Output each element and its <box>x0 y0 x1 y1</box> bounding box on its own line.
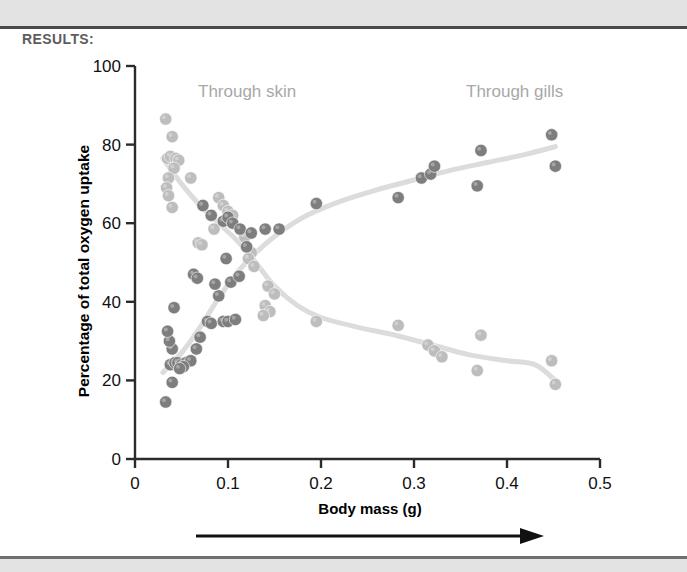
data-point <box>310 315 322 327</box>
data-point <box>191 272 203 284</box>
data-point-highlight <box>170 304 174 308</box>
data-point <box>259 223 271 235</box>
stage-arrow-icon <box>0 522 687 552</box>
x-axis-title: Body mass (g) <box>135 500 605 517</box>
data-point-highlight <box>211 280 215 284</box>
data-point-highlight <box>261 302 265 306</box>
x-tick-label: 0.2 <box>309 474 333 493</box>
data-point <box>471 364 483 376</box>
data-point-highlight <box>418 174 422 178</box>
data-point-highlight <box>245 255 249 259</box>
data-point <box>166 131 178 143</box>
data-point-highlight <box>224 214 228 218</box>
data-point <box>245 227 257 239</box>
data-point-highlight <box>196 333 200 337</box>
data-point <box>166 201 178 213</box>
chart-plot-area: 02040608010000.10.20.30.40.5 <box>0 0 687 572</box>
x-tick-label: 0.1 <box>216 474 240 493</box>
y-tick-label: 0 <box>112 450 121 469</box>
data-point <box>428 160 440 172</box>
data-point <box>194 331 206 343</box>
data-point-highlight <box>431 162 435 166</box>
data-point <box>471 180 483 192</box>
y-tick-label: 80 <box>102 136 121 155</box>
data-point <box>196 239 208 251</box>
data-point <box>475 329 487 341</box>
data-point-highlight <box>207 320 211 324</box>
data-point <box>545 355 557 367</box>
data-point-highlight <box>275 225 279 229</box>
data-point-highlight <box>548 131 552 135</box>
series-points-0 <box>159 113 561 391</box>
data-point-highlight <box>162 115 166 119</box>
data-point-highlight <box>313 318 317 322</box>
data-point-highlight <box>261 225 265 229</box>
data-point <box>159 113 171 125</box>
data-point-highlight <box>229 219 233 223</box>
y-tick-label: 40 <box>102 293 121 312</box>
data-point <box>205 317 217 329</box>
data-point-highlight <box>473 182 477 186</box>
data-point <box>549 160 561 172</box>
data-point <box>173 362 185 374</box>
data-point-highlight <box>215 292 219 296</box>
data-point <box>436 351 448 363</box>
data-point <box>234 223 246 235</box>
data-point-highlight <box>260 312 264 316</box>
data-point-highlight <box>176 365 180 369</box>
data-point-highlight <box>220 202 224 206</box>
data-point <box>161 325 173 337</box>
data-point <box>168 301 180 313</box>
data-point-highlight <box>162 398 166 402</box>
data-point <box>185 172 197 184</box>
data-point <box>213 290 225 302</box>
data-point-highlight <box>264 282 268 286</box>
data-point-highlight <box>210 225 214 229</box>
data-point-highlight <box>187 174 191 178</box>
data-point-highlight <box>168 379 172 383</box>
data-point-highlight <box>236 225 240 229</box>
x-tick-label: 0.4 <box>495 474 519 493</box>
data-point <box>549 378 561 390</box>
data-point-highlight <box>424 341 428 345</box>
data-point-highlight <box>168 204 172 208</box>
x-tick-label: 0 <box>130 474 139 493</box>
data-point <box>205 209 217 221</box>
data-point-highlight <box>552 381 556 385</box>
data-point-highlight <box>227 278 231 282</box>
panel-bottom-band <box>0 559 687 572</box>
data-point <box>233 270 245 282</box>
data-point <box>475 144 487 156</box>
data-point <box>159 396 171 408</box>
data-point-highlight <box>271 290 275 294</box>
data-point <box>392 191 404 203</box>
data-point <box>273 223 285 235</box>
data-point-highlight <box>194 274 198 278</box>
series-label-through-skin: Through skin <box>198 82 296 102</box>
data-point-highlight <box>168 133 172 137</box>
data-point-highlight <box>187 357 191 361</box>
data-point <box>229 313 241 325</box>
data-point-highlight <box>548 357 552 361</box>
data-point <box>190 343 202 355</box>
data-point <box>220 252 232 264</box>
y-tick-label: 100 <box>93 57 121 76</box>
data-point <box>209 278 221 290</box>
series-label-through-gills: Through gills <box>466 82 563 102</box>
y-tick-label: 20 <box>102 371 121 390</box>
data-point-highlight <box>175 157 179 161</box>
data-point-highlight <box>235 272 239 276</box>
developmental-stage-axis: Larvae Juveniles <box>0 522 687 552</box>
data-point-highlight <box>199 202 203 206</box>
data-point <box>166 376 178 388</box>
results-figure-panel: RESULTS: 02040608010000.10.20.30.40.5 Pe… <box>0 0 687 572</box>
data-point-highlight <box>164 327 168 331</box>
data-point-highlight <box>232 316 236 320</box>
data-point-highlight <box>163 184 167 188</box>
data-point <box>248 260 260 272</box>
data-point-highlight <box>250 263 254 267</box>
data-point-highlight <box>394 194 398 198</box>
series-points-1 <box>159 129 561 409</box>
data-point <box>197 199 209 211</box>
data-point-highlight <box>165 174 169 178</box>
